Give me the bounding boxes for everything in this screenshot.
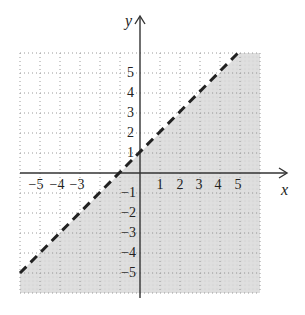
y-axis-label: y bbox=[123, 12, 133, 30]
y-tick-label: 3 bbox=[127, 105, 134, 120]
y-tick-label: −1 bbox=[121, 185, 136, 200]
x-tick-label: 4 bbox=[215, 177, 222, 192]
x-tick-label: 5 bbox=[235, 177, 242, 192]
y-tick-label: −3 bbox=[121, 225, 136, 240]
x-tick-label: −4 bbox=[50, 177, 65, 192]
y-tick-label: 4 bbox=[127, 85, 134, 100]
y-tick-label: −4 bbox=[121, 245, 136, 260]
y-tick-label: 2 bbox=[127, 125, 134, 140]
y-tick-label: 1 bbox=[127, 145, 134, 160]
x-tick-label: 2 bbox=[177, 177, 184, 192]
y-tick-label: 5 bbox=[127, 65, 134, 80]
y-tick-label: −2 bbox=[121, 205, 136, 220]
x-tick-label: 1 bbox=[157, 177, 164, 192]
x-axis-label: x bbox=[280, 181, 288, 198]
x-tick-label: −3 bbox=[70, 177, 85, 192]
x-tick-label: −5 bbox=[29, 177, 44, 192]
inequality-graph: y x −5 −4 −3 1 2 3 4 5 5 4 3 2 1 −1 −2 −… bbox=[0, 0, 305, 315]
y-tick-label: −5 bbox=[121, 265, 136, 280]
x-tick-label: 3 bbox=[196, 177, 203, 192]
